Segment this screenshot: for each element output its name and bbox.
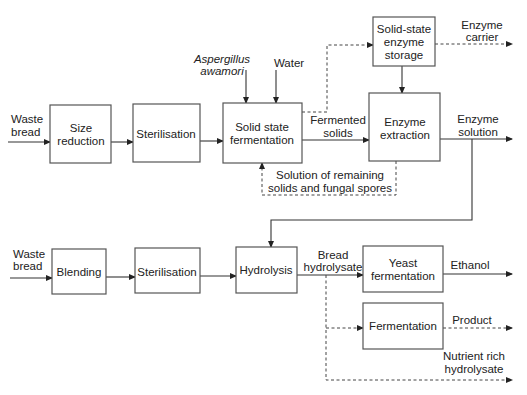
size-reduction-box bbox=[50, 105, 111, 163]
extraction-label: Enzymeextraction bbox=[380, 116, 430, 141]
waste-bread-1-label: Wastebread bbox=[11, 113, 43, 138]
ssf-box bbox=[223, 103, 302, 163]
ssf-label: Solid statefermentation bbox=[230, 121, 294, 146]
sterilisation-2-label: Sterilisation bbox=[137, 266, 196, 278]
fermented-solids-label: Fermentedsolids bbox=[310, 114, 366, 139]
process-flow-diagram: Sizereduction Sterilisation Solid statef… bbox=[0, 0, 527, 395]
enzyme-solution-label: Enzymesolution bbox=[457, 113, 499, 138]
fermentation-label: Fermentation bbox=[369, 320, 437, 332]
waste-bread-2-label: Wastebread bbox=[13, 248, 45, 272]
yeast-fermentation-box bbox=[363, 246, 443, 292]
nutrient-label: Nutrient richhydrolysate bbox=[443, 350, 505, 375]
product-label: Product bbox=[452, 314, 492, 326]
blending-label: Blending bbox=[57, 266, 102, 278]
ethanol-label: Ethanol bbox=[450, 259, 489, 271]
recycle-label: Solution of remainingsolids and fungal s… bbox=[268, 169, 392, 194]
sterilisation-1-label: Sterilisation bbox=[136, 128, 195, 140]
hydrolysis-label: Hydrolysis bbox=[239, 264, 292, 276]
bread-hydrolysate-label: Breadhydrolysate bbox=[304, 249, 363, 273]
storage-label: Solid-stateenzymestorage bbox=[377, 23, 431, 61]
enzyme-carrier-label: Enzymecarrier bbox=[461, 19, 503, 43]
dashed-ssf-to-storage bbox=[302, 45, 373, 112]
water-label: Water bbox=[274, 57, 304, 69]
aspergillus-label: Aspergillusawamori bbox=[193, 53, 250, 77]
